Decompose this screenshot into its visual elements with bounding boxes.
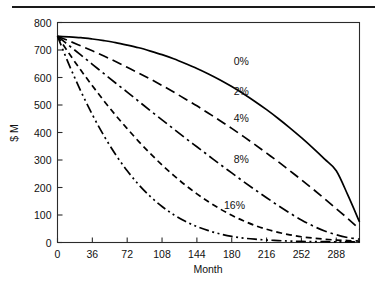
x-tick-label: 216 bbox=[258, 248, 276, 260]
series-line-4pct bbox=[58, 36, 360, 239]
series-line-8pct bbox=[58, 36, 360, 241]
x-tick-label: 0 bbox=[55, 248, 61, 260]
series-line-16pct bbox=[58, 36, 360, 242]
x-axis-title: Month bbox=[193, 263, 222, 275]
y-tick-label: 800 bbox=[34, 17, 52, 29]
y-tick-label: 700 bbox=[34, 44, 52, 56]
x-tick-label: 180 bbox=[223, 248, 241, 260]
series-label-2pct: 2% bbox=[234, 85, 249, 97]
figure-container: 03672108144180216252288 0100200300400500… bbox=[0, 0, 380, 288]
series-label-0pct: 0% bbox=[234, 55, 249, 67]
x-tick-label: 36 bbox=[87, 248, 99, 260]
series-inline-labels: 0%2%4%8%16% bbox=[224, 55, 249, 211]
y-tick-label: 400 bbox=[34, 127, 52, 139]
y-tick-label: 200 bbox=[34, 182, 52, 194]
series-label-8pct: 8% bbox=[234, 153, 249, 165]
series-label-4pct: 4% bbox=[234, 112, 249, 124]
x-tick-label: 252 bbox=[293, 248, 311, 260]
x-tick-labels: 03672108144180216252288 bbox=[55, 248, 346, 260]
y-tick-label: 500 bbox=[34, 99, 52, 111]
series-label-16pct: 16% bbox=[224, 199, 245, 211]
y-tick-label: 0 bbox=[46, 237, 52, 249]
x-tick-label: 108 bbox=[153, 248, 171, 260]
y-tick-label: 600 bbox=[34, 72, 52, 84]
y-tick-label: 300 bbox=[34, 154, 52, 166]
y-axis-title: $ M bbox=[8, 124, 20, 142]
y-tick-labels: 0100200300400500600700800 bbox=[34, 17, 52, 249]
x-tick-label: 288 bbox=[328, 248, 346, 260]
series-line-0pct bbox=[58, 36, 360, 222]
x-tick-label: 72 bbox=[121, 248, 133, 260]
series-curves bbox=[58, 36, 360, 242]
x-tick-label: 144 bbox=[188, 248, 206, 260]
y-tick-label: 100 bbox=[34, 209, 52, 221]
line-chart: 03672108144180216252288 0100200300400500… bbox=[0, 0, 380, 288]
